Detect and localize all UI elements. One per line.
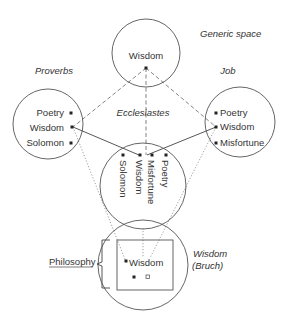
job-item-wisdom: Wisdom: [220, 121, 254, 132]
generic-wisdom-node: [145, 67, 148, 70]
blend-title-line1: Wisdom: [193, 248, 227, 259]
blend-hollow-node: [146, 275, 150, 279]
proverbs-solomon-node: [70, 142, 73, 145]
ecclesiastes-space: Ecclesiastes Poetry Misfortune Wisdom So…: [100, 107, 186, 229]
link-generic-proverbs: [73, 68, 146, 127]
ecclesiastes-item-poetry: Poetry: [160, 160, 171, 188]
job-item-misfortune: Misfortune: [220, 137, 264, 148]
ecclesiastes-poetry-node: [165, 154, 168, 157]
blend-item-wisdom: Wisdom: [129, 257, 163, 268]
generic-item-wisdom: Wisdom: [129, 50, 163, 61]
proverbs-wisdom-node: [71, 126, 74, 129]
proverbs-item-wisdom: Wisdom: [30, 122, 64, 133]
ecclesiastes-misfortune-node: [151, 154, 154, 157]
generic-space-title: Generic space: [200, 28, 261, 39]
philosophy-bracket: [97, 240, 110, 288]
ecclesiastes-solomon-node: [122, 154, 125, 157]
job-wisdom-node: [215, 126, 218, 129]
job-title: Job: [219, 65, 235, 76]
ecclesiastes-item-misfortune: Misfortune: [146, 160, 157, 204]
blend-filled-node: [133, 276, 136, 279]
job-misfortune-node: [215, 142, 218, 145]
job-poetry-node: [215, 112, 218, 115]
blend-space: Wisdom (Bruch) Wisdom Philosophy: [49, 220, 227, 310]
ecclesiastes-wisdom-node: [139, 154, 142, 157]
blend-wisdom-node: [125, 260, 128, 263]
link-proverbs-ecclesiastes: [73, 127, 139, 155]
job-space: Job Poetry Wisdom Misfortune: [205, 65, 275, 157]
ecclesiastes-item-wisdom: Wisdom: [134, 160, 145, 194]
proverbs-item-poetry: Poetry: [37, 107, 65, 118]
ecclesiastes-title: Ecclesiastes: [117, 107, 170, 118]
job-item-poetry: Poetry: [220, 107, 248, 118]
link-job-ecclesiastes: [147, 127, 216, 155]
proverbs-space: Proverbs Poetry Wisdom Solomon: [13, 65, 83, 159]
ecclesiastes-item-solomon: Solomon: [118, 160, 129, 198]
generic-space: Generic space Wisdom: [112, 19, 261, 87]
proverbs-poetry-node: [70, 112, 73, 115]
blend-title-line2: (Bruch): [192, 260, 223, 271]
proverbs-title: Proverbs: [35, 65, 73, 76]
philosophy-label: Philosophy: [49, 256, 96, 267]
proverbs-item-solomon: Solomon: [27, 137, 65, 148]
blending-diagram: Generic space Wisdom Proverbs Poetry Wis…: [0, 0, 284, 315]
